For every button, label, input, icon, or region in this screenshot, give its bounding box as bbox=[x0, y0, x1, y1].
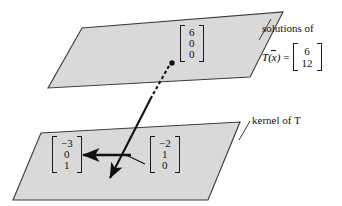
vector-entries: 6 0 0 bbox=[185, 27, 199, 60]
close-paren: ) bbox=[277, 51, 281, 63]
solution-point-dot bbox=[169, 60, 174, 65]
bracket-left-icon bbox=[293, 43, 298, 71]
transformation-equation: T(x) = 6 12 bbox=[262, 43, 322, 71]
vector-entries: 6 12 bbox=[298, 45, 317, 69]
kernel-of-t-label: kernel of T bbox=[252, 114, 301, 126]
vector-variable: x bbox=[272, 51, 277, 63]
equals-sign: = bbox=[283, 51, 289, 63]
vector-entry: 0 bbox=[162, 160, 168, 171]
vector-entry: 6 bbox=[304, 45, 310, 57]
vector-entries: −3 0 1 bbox=[57, 138, 77, 171]
vector-entry: 1 bbox=[64, 160, 70, 171]
solutions-of-label: solutions of bbox=[262, 22, 314, 34]
vector-bar-icon bbox=[271, 50, 276, 51]
vector-entry: 12 bbox=[302, 57, 313, 69]
leader-line-kernel bbox=[239, 121, 250, 140]
bracket-right-icon bbox=[199, 25, 204, 62]
bracket-right-icon bbox=[77, 136, 82, 173]
equation-rhs-vector: 6 12 bbox=[293, 43, 322, 71]
bracket-right-icon bbox=[317, 43, 322, 71]
linear-algebra-diagram: 6 0 0 −3 0 1 −2 1 0 solutions of T(x) = bbox=[0, 0, 342, 206]
kernel-basis-vector-left: −3 0 1 bbox=[52, 136, 82, 173]
upper-plane-solutions bbox=[48, 12, 283, 88]
kernel-basis-vector-right: −2 1 0 bbox=[150, 136, 180, 173]
lower-plane-kernel bbox=[13, 122, 240, 200]
particular-solution-vector: 6 0 0 bbox=[180, 25, 204, 62]
bracket-left-icon bbox=[52, 136, 57, 173]
bracket-right-icon bbox=[175, 136, 180, 173]
bracket-left-icon bbox=[150, 136, 155, 173]
vector-entries: −2 1 0 bbox=[155, 138, 175, 171]
equation-lhs: T(x) bbox=[262, 51, 280, 63]
variable-letter: x bbox=[272, 51, 277, 63]
vector-entry: 0 bbox=[189, 49, 195, 60]
bracket-left-icon bbox=[180, 25, 185, 62]
